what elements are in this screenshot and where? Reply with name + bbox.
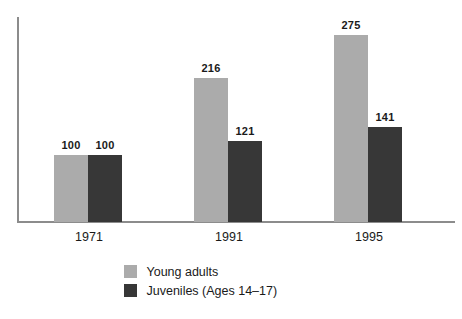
bar-group-1995: 275 141 [334,17,404,222]
x-tick-label-1995: 1995 [329,230,409,244]
bar-group-1971: 100 100 [54,17,124,222]
bar-value-label: 100 [75,139,135,151]
bar-chart: 100 100 216 121 275 141 1971 1 [0,0,462,319]
bar-young-adults-1991[interactable]: 216 [194,78,228,222]
legend-item-young-adults[interactable]: Young adults [124,262,339,281]
bar-value-label: 275 [321,19,381,31]
bar-juveniles-1991[interactable]: 121 [228,141,262,222]
legend-swatch-dark-icon [124,284,137,297]
legend-label-young-adults: Young adults [147,265,219,279]
chart-legend: Young adults Juveniles (Ages 14–17) [0,262,462,300]
x-axis-tick-labels: 1971 1991 1995 [19,230,455,250]
legend-item-juveniles[interactable]: Juveniles (Ages 14–17) [124,281,339,300]
bar-value-label: 216 [181,62,241,74]
bar-value-label: 141 [355,111,415,123]
bar-young-adults-1995[interactable]: 275 [334,35,368,222]
bar-value-label: 121 [215,125,275,137]
plot-area: 100 100 216 121 275 141 [19,17,455,222]
legend-label-juveniles: Juveniles (Ages 14–17) [147,284,278,298]
x-tick-label-1971: 1971 [49,230,129,244]
bar-group-1991: 216 121 [194,17,264,222]
bar-young-adults-1971[interactable]: 100 [54,155,88,222]
legend-swatch-light-icon [124,265,137,278]
x-tick-label-1991: 1991 [189,230,269,244]
bar-juveniles-1971[interactable]: 100 [88,155,122,222]
bar-juveniles-1995[interactable]: 141 [368,127,402,222]
